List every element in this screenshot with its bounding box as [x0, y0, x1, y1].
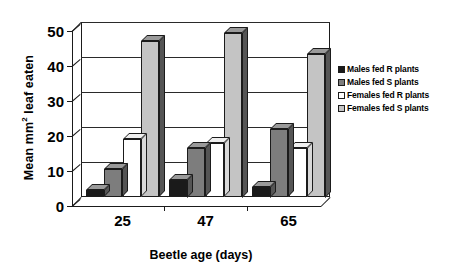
legend-item: Males fed S plants — [338, 76, 452, 89]
y-axis-tick-label: 40 — [47, 59, 64, 74]
legend-item-label: Males fed R plants — [347, 64, 419, 74]
y-axis-tick-connector — [72, 94, 81, 102]
bar-side-face — [141, 133, 147, 197]
bar-chart-figure: Mean mm2 leaf eaten 01020304050 254765 B… — [0, 0, 454, 277]
x-axis-tick-label: 47 — [197, 212, 214, 229]
bar-side-face — [325, 47, 331, 197]
y-axis-tick-label: 20 — [47, 129, 64, 144]
y-axis-tick-label: 50 — [47, 24, 64, 39]
bar — [169, 180, 187, 198]
y-axis-tick-label: 30 — [47, 94, 64, 109]
plot-area — [72, 22, 330, 206]
bar-side-face — [307, 142, 313, 197]
legend-item: Females fed R plants — [338, 89, 452, 102]
x-axis-tick — [247, 206, 248, 211]
bar-side-face — [205, 142, 211, 197]
legend-item: Females fed S plants — [338, 102, 452, 115]
y-axis-line — [72, 31, 73, 206]
x-axis-tick-labels: 254765 — [72, 212, 330, 234]
y-axis-tick-connector — [72, 164, 81, 172]
box-edge-bottom-right — [321, 197, 331, 207]
y-axis-tick-label: 0 — [56, 199, 64, 214]
bar-side-face — [224, 137, 230, 197]
bar-front-face — [252, 187, 270, 198]
y-axis-tick-connector — [72, 129, 81, 137]
gridline — [81, 92, 330, 93]
bar — [86, 190, 104, 197]
chart-legend: Males fed R plantsMales fed S plantsFema… — [338, 63, 452, 115]
x-axis-line — [72, 206, 321, 207]
y-axis-tick-labels: 01020304050 — [24, 22, 64, 206]
legend-item-label: Males fed S plants — [347, 77, 418, 87]
x-axis-tick — [164, 206, 165, 211]
bar-side-face — [242, 26, 248, 197]
legend-swatch-icon — [338, 79, 345, 86]
gridline — [81, 57, 330, 58]
bar-side-face — [288, 123, 294, 197]
bar-front-face — [86, 190, 104, 197]
bar-side-face — [159, 35, 165, 197]
y-axis-tick-label: 10 — [47, 164, 64, 179]
x-axis-tick-label: 25 — [114, 212, 131, 229]
legend-swatch-icon — [338, 105, 345, 112]
gridline — [81, 22, 330, 23]
legend-swatch-icon — [338, 92, 345, 99]
bar-front-face — [169, 180, 187, 198]
bar — [252, 187, 270, 198]
x-axis-tick-label: 65 — [280, 212, 297, 229]
x-axis-title: Beetle age (days) — [72, 248, 330, 262]
y-axis-tick-connector — [72, 59, 81, 67]
legend-swatch-icon — [338, 66, 345, 73]
legend-item-label: Females fed R plants — [347, 90, 429, 100]
legend-item: Males fed R plants — [338, 63, 452, 76]
legend-item-label: Females fed S plants — [347, 103, 429, 113]
